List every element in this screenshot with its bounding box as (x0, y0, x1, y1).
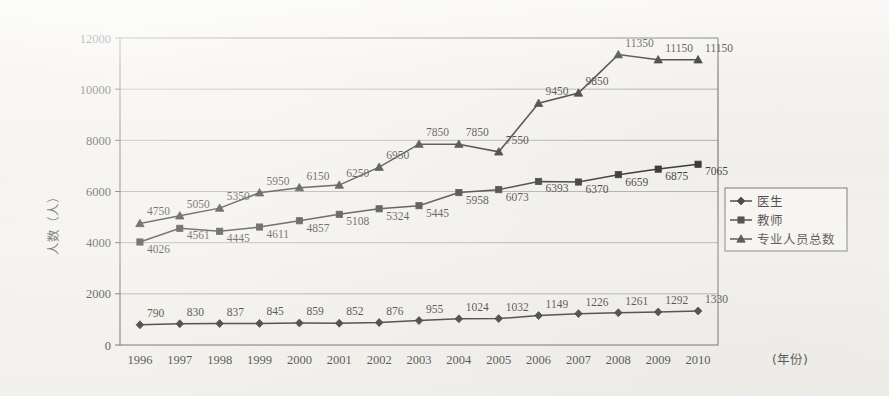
data-value-label: 4750 (147, 205, 170, 217)
data-value-label: 1032 (506, 301, 529, 313)
data-point-marker (217, 228, 223, 234)
data-value-label: 5958 (466, 194, 489, 206)
data-value-label: 876 (386, 305, 404, 317)
data-value-label: 6875 (665, 170, 688, 182)
y-tick-label: 0 (105, 339, 111, 353)
data-value-label: 11150 (705, 42, 733, 54)
data-value-label: 7550 (506, 134, 529, 146)
data-value-label: 1024 (466, 301, 489, 313)
x-tick-label: 1998 (207, 353, 232, 367)
data-value-label: 837 (227, 306, 245, 318)
x-tick-label: 1999 (247, 353, 272, 367)
legend-label: 教师 (757, 213, 783, 228)
x-tick-label: 2009 (646, 353, 671, 367)
data-value-label: 4026 (147, 243, 170, 255)
data-value-label: 5324 (386, 210, 409, 222)
data-value-label: 7850 (426, 126, 449, 138)
y-axis-title: 人数（人） (46, 190, 61, 255)
x-tick-label: 2003 (407, 353, 432, 367)
legend-label: 医生 (757, 194, 783, 209)
data-value-label: 5350 (227, 190, 250, 202)
data-value-label: 790 (147, 307, 165, 319)
x-tick-label: 2004 (446, 353, 472, 367)
data-value-label: 852 (346, 305, 364, 317)
data-value-label: 5445 (426, 207, 449, 219)
x-tick-label: 2000 (287, 353, 312, 367)
x-axis-tick-labels: 1996199719981999200020012002200320042005… (127, 353, 710, 367)
chart-legend[interactable]: 医生教师专业人员总数 (725, 188, 847, 251)
data-point-marker (336, 211, 342, 217)
data-value-label: 6393 (546, 182, 569, 194)
data-value-label: 4445 (227, 232, 250, 244)
data-value-label: 5950 (267, 175, 290, 187)
data-value-label: 859 (306, 305, 324, 317)
data-value-label: 6073 (506, 191, 529, 203)
data-value-label: 5050 (187, 198, 210, 210)
y-tick-label: 8000 (86, 134, 111, 148)
data-value-label: 6250 (346, 167, 369, 179)
chart-figure: 020004000600080001000012000 199619971998… (0, 0, 889, 396)
data-value-label: 1149 (546, 298, 569, 310)
data-value-label: 6659 (625, 176, 648, 188)
legend-label: 专业人员总数 (757, 232, 835, 247)
data-value-label: 1330 (705, 293, 728, 305)
data-value-label: 6150 (306, 170, 329, 182)
data-point-marker (615, 172, 621, 178)
y-tick-label: 4000 (86, 236, 111, 250)
data-value-label: 955 (426, 303, 444, 315)
data-point-marker (575, 179, 581, 185)
x-tick-label: 2007 (566, 353, 591, 367)
data-point-marker (695, 161, 701, 167)
data-point-marker (256, 224, 262, 230)
y-tick-label: 12000 (80, 32, 111, 46)
data-value-label: 7065 (705, 165, 728, 177)
x-tick-label: 1997 (167, 353, 192, 367)
x-tick-label: 2006 (526, 353, 551, 367)
data-point-marker (376, 206, 382, 212)
data-point-marker (496, 187, 502, 193)
data-value-label: 1226 (585, 296, 608, 308)
data-value-label: 6370 (585, 183, 608, 195)
data-value-label: 4611 (267, 228, 290, 240)
data-value-label: 1261 (625, 295, 648, 307)
y-tick-label: 2000 (86, 287, 111, 301)
legend-marker-square-icon (738, 217, 744, 223)
data-value-label: 830 (187, 306, 205, 318)
data-value-label: 11150 (665, 42, 693, 54)
data-value-label: 5108 (346, 215, 369, 227)
data-value-label: 7850 (466, 126, 489, 138)
x-axis-title: (年份) (772, 352, 808, 367)
data-point-marker (296, 218, 302, 224)
x-tick-label: 2002 (367, 353, 392, 367)
data-point-marker (137, 239, 143, 245)
data-point-marker (416, 203, 422, 209)
data-value-label: 1292 (665, 294, 688, 306)
x-tick-label: 2010 (686, 353, 711, 367)
data-point-marker (456, 189, 462, 195)
y-tick-label: 10000 (80, 83, 111, 97)
data-value-label: 9450 (546, 85, 569, 97)
x-tick-label: 2001 (327, 353, 352, 367)
data-value-label: 4561 (187, 229, 210, 241)
line-chart-canvas: 020004000600080001000012000 199619971998… (0, 0, 889, 396)
x-tick-label: 2008 (606, 353, 631, 367)
data-value-label: 4857 (306, 222, 329, 234)
data-point-marker (536, 178, 542, 184)
data-value-label: 845 (267, 305, 285, 317)
data-value-label: 6950 (386, 149, 409, 161)
data-value-label: 11350 (625, 37, 654, 49)
x-tick-label: 2005 (486, 353, 511, 367)
data-point-marker (177, 225, 183, 231)
x-tick-label: 1996 (127, 353, 152, 367)
data-value-label: 9850 (585, 75, 608, 87)
y-tick-label: 6000 (86, 185, 111, 199)
data-point-marker (655, 166, 661, 172)
